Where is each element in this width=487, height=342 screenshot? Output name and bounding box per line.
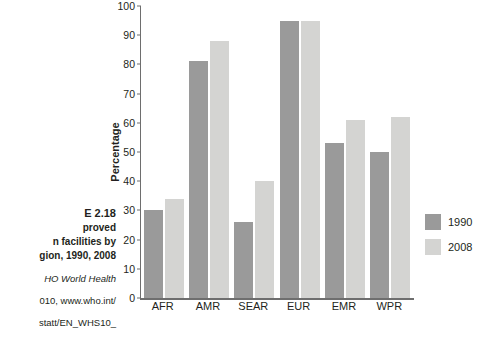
- legend-item[interactable]: 1990: [425, 214, 472, 230]
- bar[interactable]: [210, 41, 229, 298]
- x-tick-label: WPR: [367, 300, 412, 312]
- bar[interactable]: [255, 181, 274, 298]
- bar[interactable]: [346, 120, 365, 298]
- bar[interactable]: [280, 21, 299, 298]
- y-tick-label: 80: [123, 58, 135, 70]
- bar[interactable]: [144, 210, 163, 298]
- bar-group: [325, 120, 365, 298]
- x-axis-tick-labels: AFRAMRSEAREUREMRWPR: [140, 300, 412, 312]
- legend-label: 2008: [448, 241, 472, 253]
- chart-legend: 19902008: [425, 214, 472, 255]
- x-tick-label: EMR: [321, 300, 366, 312]
- bar-group: [234, 181, 274, 298]
- figure-caption: E 2.18 proved n facilities by gion, 1990…: [0, 206, 116, 329]
- bar[interactable]: [301, 21, 320, 298]
- legend-swatch: [425, 239, 441, 255]
- bar[interactable]: [189, 61, 208, 298]
- y-tick-label: 20: [123, 234, 135, 246]
- x-tick-label: AMR: [185, 300, 230, 312]
- x-tick-label: SEAR: [231, 300, 276, 312]
- x-tick-label: AFR: [140, 300, 185, 312]
- y-tick-label: 0: [129, 292, 135, 304]
- y-tick-label: 70: [123, 88, 135, 100]
- legend-item[interactable]: 2008: [425, 239, 472, 255]
- bar-chart: Percentage 0102030405060708090100 AFRAMR…: [107, 0, 487, 342]
- bar[interactable]: [325, 143, 344, 298]
- bar[interactable]: [234, 222, 253, 298]
- y-tick-label: 50: [123, 146, 135, 158]
- bar-groups: [141, 6, 413, 298]
- caption-source-line-3: statt/EN_WHS10_: [0, 316, 116, 329]
- bar-group: [370, 117, 410, 298]
- bar-group: [144, 199, 184, 298]
- caption-subtitle-line-1: proved: [0, 221, 116, 235]
- y-tick-label: 40: [123, 175, 135, 187]
- legend-label: 1990: [448, 216, 472, 228]
- y-tick-label: 30: [123, 204, 135, 216]
- bar-group: [189, 41, 229, 298]
- y-axis-label: Percentage: [109, 122, 121, 181]
- bar[interactable]: [165, 199, 184, 298]
- y-tick-label: 10: [123, 263, 135, 275]
- y-tick-label: 100: [117, 0, 135, 12]
- caption-source-line-1: HO World Health: [0, 272, 116, 285]
- y-tick-label: 90: [123, 29, 135, 41]
- y-tick-label: 60: [123, 117, 135, 129]
- plot-area: Percentage 0102030405060708090100: [140, 6, 413, 299]
- caption-subtitle-line-3: gion, 1990, 2008: [0, 249, 116, 263]
- bar[interactable]: [370, 152, 389, 298]
- caption-source-line-2: 010, www.who.int/: [0, 294, 116, 307]
- bar-group: [280, 21, 320, 298]
- bar[interactable]: [391, 117, 410, 298]
- legend-swatch: [425, 214, 441, 230]
- caption-subtitle-line-2: n facilities by: [0, 235, 116, 249]
- caption-title: E 2.18: [0, 206, 116, 221]
- x-tick-label: EUR: [276, 300, 321, 312]
